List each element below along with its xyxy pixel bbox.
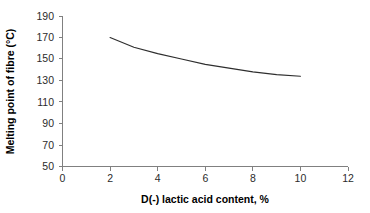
y-tick-label: 190 — [36, 10, 54, 22]
y-tick-label: 110 — [37, 96, 54, 108]
y-axis-title: Melting point of fibre (°C) — [4, 29, 16, 155]
y-tick-label: 150 — [36, 52, 54, 64]
y-tick-label: 70 — [42, 139, 54, 151]
x-tick-label: 2 — [107, 172, 113, 184]
y-tick-label: 130 — [36, 74, 54, 86]
y-tick-label: 170 — [36, 31, 54, 43]
y-tick-label: 90 — [42, 117, 54, 129]
line-chart: 50 70 90 110 130 150 170 190 0 2 4 6 8 1… — [0, 0, 370, 213]
x-tick-label: 4 — [155, 172, 161, 184]
chart-background — [0, 0, 370, 213]
x-tick-label: 6 — [202, 172, 208, 184]
x-axis-title: D(-) lactic acid content, % — [141, 193, 269, 205]
y-tick-label: 50 — [42, 160, 54, 172]
x-tick-label: 10 — [295, 172, 307, 184]
chart-container: 50 70 90 110 130 150 170 190 0 2 4 6 8 1… — [0, 0, 370, 213]
x-tick-label: 0 — [60, 172, 66, 184]
x-tick-label: 8 — [250, 172, 256, 184]
x-tick-label: 12 — [342, 172, 354, 184]
